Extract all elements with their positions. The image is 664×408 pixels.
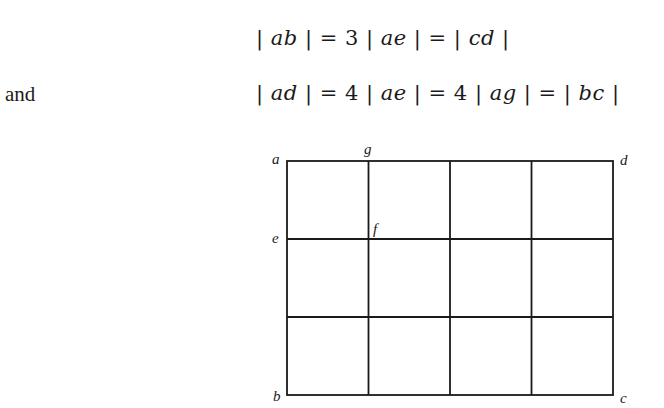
- grid-figure: a g d e f b c: [0, 0, 664, 408]
- label-a: a: [272, 151, 280, 167]
- label-c: c: [620, 390, 627, 406]
- label-d: d: [620, 152, 628, 168]
- label-f: f: [373, 221, 379, 237]
- label-b: b: [273, 388, 281, 404]
- label-g: g: [364, 141, 372, 157]
- grid-lines: [287, 161, 613, 395]
- label-e: e: [272, 230, 279, 246]
